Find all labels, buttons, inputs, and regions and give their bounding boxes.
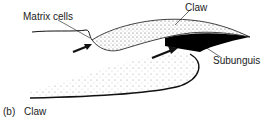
label-subunguis: Subunguis xyxy=(213,56,260,66)
label-claw: Claw xyxy=(185,3,207,13)
matrix-line xyxy=(32,30,92,40)
matrix-leader xyxy=(58,20,90,38)
arrow-icon xyxy=(73,44,92,52)
subunguis xyxy=(165,33,250,52)
caption-title: Claw xyxy=(24,107,46,117)
toe-tissue xyxy=(30,51,198,98)
label-matrix-cells: Matrix cells xyxy=(23,12,73,22)
caption-panel: (b) xyxy=(3,107,15,117)
